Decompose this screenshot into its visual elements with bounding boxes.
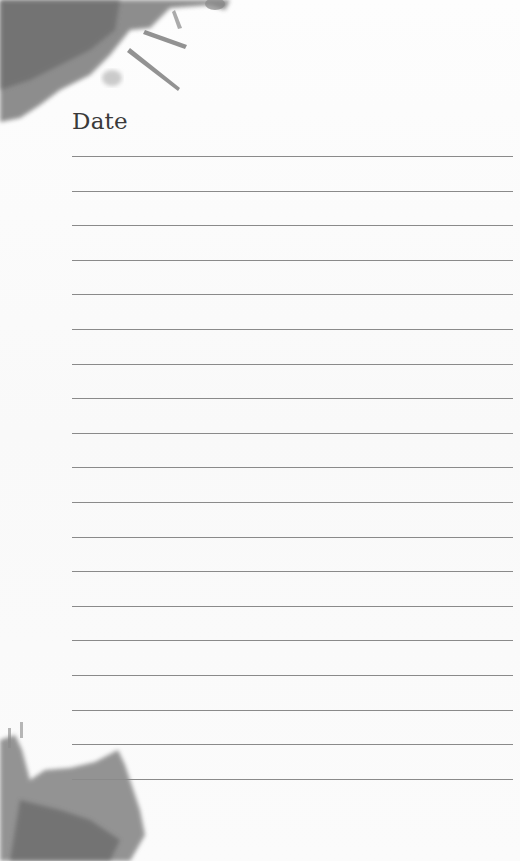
writing-line — [72, 606, 513, 607]
writing-line — [72, 156, 513, 157]
writing-line — [72, 433, 513, 434]
writing-line — [72, 467, 513, 468]
writing-line — [72, 502, 513, 503]
writing-line — [72, 537, 513, 538]
writing-line — [72, 225, 513, 226]
writing-line — [72, 710, 513, 711]
writing-line — [72, 294, 513, 295]
writing-line — [72, 744, 513, 745]
writing-line — [72, 571, 513, 572]
notebook-page: Date — [0, 0, 520, 861]
writing-line — [72, 260, 513, 261]
writing-line — [72, 398, 513, 399]
writing-line — [72, 675, 513, 676]
writing-line — [72, 329, 513, 330]
writing-line — [72, 779, 513, 780]
ruled-lines — [72, 0, 513, 861]
writing-line — [72, 364, 513, 365]
writing-line — [72, 191, 513, 192]
writing-line — [72, 640, 513, 641]
